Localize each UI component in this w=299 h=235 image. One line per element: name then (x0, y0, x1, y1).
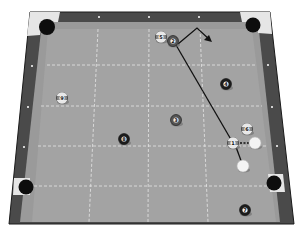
ball-number-label: 6 (245, 126, 249, 132)
pocket-bottom-right (267, 176, 282, 191)
ball-number-label: 2 (171, 38, 175, 44)
pocket-bottom-left (19, 180, 34, 195)
ball-number-label: 8 (122, 136, 126, 142)
pocket-top-right (246, 18, 261, 33)
pool-table-diagram: 524938617 (0, 0, 299, 235)
ball-number-label: 1 (231, 140, 235, 146)
ball-number-label: 5 (159, 34, 163, 40)
ball-number-label: 4 (224, 81, 228, 87)
table-felt (32, 29, 276, 222)
ball-number-label: 7 (243, 207, 247, 213)
pocket-top-left (39, 19, 55, 35)
ball-number-label: 9 (60, 95, 64, 101)
ball-number-label: 3 (174, 117, 178, 123)
